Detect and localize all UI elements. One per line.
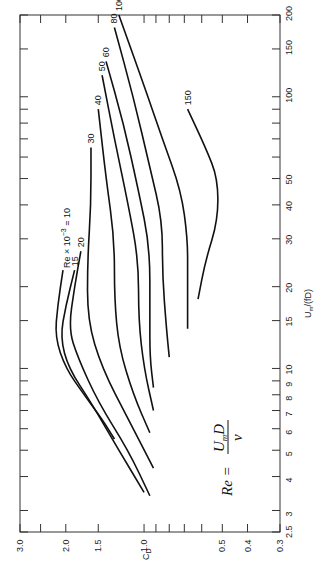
svg-text:UmD: UmD [211,424,229,452]
velocity-tick-label: 4 [284,478,294,483]
velocity-tick-label: 40 [284,201,294,211]
reynolds-formula: Re = UmD ν [211,420,245,497]
velocity-tick-label: 20 [284,283,294,293]
velocity-tick-label: 7 [284,412,294,417]
curve-labels: 15203040506080100150 [70,0,193,266]
velocity-tick-label: 6 [284,430,294,435]
cd-tick-label: 3.0 [15,539,25,552]
cd-tick-label: 0.4 [243,539,253,552]
velocity-tick-label: 3 [284,511,294,516]
velocity-tick-label: 100 [284,88,294,103]
velocity-axis-ticks: 2.53456789101520304050100150200 [20,6,294,538]
velocity-tick-label: 30 [284,235,294,245]
re-curves [56,15,218,496]
curve-label-60: 60 [101,47,111,57]
curve-label-50: 50 [97,61,107,71]
curve-re-40 [98,109,150,433]
velocity-tick-label: 150 [284,40,294,55]
velocity-tick-label: 10 [284,364,294,374]
velocity-tick-label: 5 [284,451,294,456]
curve-label-80: 80 [109,13,119,23]
curve-label-30: 30 [86,134,96,144]
velocity-tick-label: 15 [284,317,294,327]
svg-text:ν: ν [229,434,245,441]
curve-re-100 [119,15,188,329]
velocity-tick-label: 2.5 [284,525,294,538]
velocity-tick-label: 50 [284,175,294,185]
curve-label-40: 40 [93,95,103,105]
cd-tick-label: 0.3 [275,539,285,552]
curve-re-60 [106,61,153,387]
curve-re-150 [188,109,218,299]
curve-label-100: 100 [114,0,124,11]
velocity-tick-label: 8 [284,396,294,401]
velocity-tick-label: 200 [284,6,294,21]
velocity-axis-label: Um/(fD) [303,289,314,318]
svg-text:Re =: Re = [219,466,235,497]
re-legend-label: Re × 10−3 = 10 [60,208,72,268]
curve-re-80 [114,27,169,357]
velocity-tick-label: 9 [284,382,294,387]
drag-coefficient-chart: 3.02.01.51.00.50.40.3 2.5345678910152030… [0,0,323,569]
cd-tick-label: 2.0 [61,539,71,552]
curve-re-50 [102,75,153,410]
curve-label-20: 20 [76,237,86,247]
cd-tick-label: 0.5 [217,539,227,552]
curve-label-150: 150 [183,90,193,105]
cd-tick-label: 1.5 [93,539,103,552]
